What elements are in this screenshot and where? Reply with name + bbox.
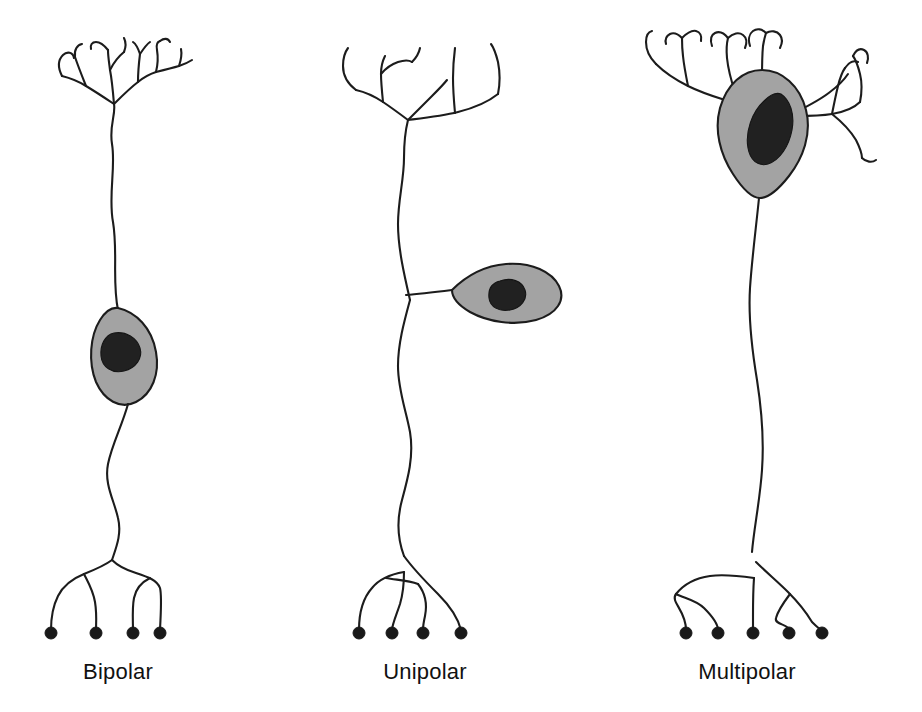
terminal-bouton — [417, 627, 429, 639]
neuron-unipolar: Unipolar — [343, 44, 561, 684]
terminal-bouton — [747, 627, 759, 639]
terminal-bouton — [154, 627, 166, 639]
terminal-bouton — [455, 627, 467, 639]
terminal-bouton — [45, 627, 57, 639]
bipolar-soma — [91, 308, 157, 405]
neuron-diagram-svg: Bipolar — [0, 0, 922, 712]
panel-label-bipolar: Bipolar — [83, 659, 153, 684]
terminal-bouton — [712, 627, 724, 639]
unipolar-axon-terminals — [353, 556, 467, 639]
bipolar-axon — [107, 404, 128, 560]
unipolar-dendrite-tree — [343, 44, 500, 300]
terminal-bouton — [816, 627, 828, 639]
neuron-bipolar: Bipolar — [45, 38, 192, 684]
terminal-bouton — [353, 627, 365, 639]
terminal-bouton — [90, 627, 102, 639]
terminal-bouton — [783, 627, 795, 639]
multipolar-axon-terminals — [675, 562, 828, 639]
multipolar-axon — [749, 198, 762, 552]
unipolar-trunk — [398, 300, 411, 556]
bipolar-dendrite-tree — [59, 38, 192, 310]
panel-label-unipolar: Unipolar — [383, 659, 467, 684]
bipolar-axon-terminals — [45, 560, 166, 639]
neuron-multipolar: Multipolar — [646, 29, 876, 684]
panel-label-multipolar: Multipolar — [698, 659, 795, 684]
unipolar-soma — [452, 264, 561, 323]
unipolar-soma-stalk — [406, 290, 452, 295]
neuron-types-figure: Bipolar — [0, 0, 922, 712]
unipolar-nucleus — [489, 279, 526, 310]
terminal-bouton — [386, 627, 398, 639]
multipolar-soma — [718, 70, 808, 198]
terminal-bouton — [680, 627, 692, 639]
terminal-bouton — [127, 627, 139, 639]
